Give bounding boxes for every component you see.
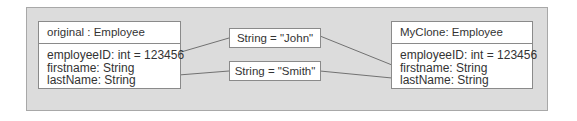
object-original: original : Employee employeeID: int = 12… (38, 21, 181, 89)
value-smith: String = "Smith" (229, 61, 321, 81)
object-clone: MyClone: Employee employeeID: int = 1234… (391, 21, 533, 89)
attribute-lastname: lastName: String (400, 74, 532, 87)
attribute-employeeid: employeeID: int = 123456 (400, 49, 532, 62)
attribute-lastname: lastName: String (47, 74, 180, 87)
attribute-employeeid: employeeID: int = 123456 (47, 49, 180, 62)
value-john: String = "John" (229, 28, 321, 48)
object-title: MyClone: Employee (392, 22, 532, 44)
object-attributes: employeeID: int = 123456 firstname: Stri… (39, 44, 180, 87)
object-title: original : Employee (39, 22, 180, 44)
object-attributes: employeeID: int = 123456 firstname: Stri… (392, 44, 532, 87)
